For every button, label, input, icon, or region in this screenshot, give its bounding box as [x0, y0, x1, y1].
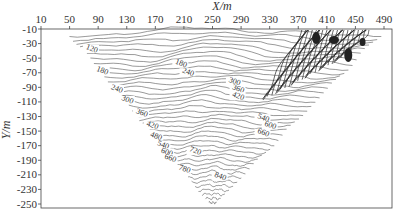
contour-line: [209, 201, 217, 204]
x-tick-label: 290: [233, 13, 250, 25]
y-axis-title: Y/m: [0, 120, 13, 139]
x-tick-label: 330: [261, 13, 278, 25]
x-tick-label: 170: [147, 13, 164, 25]
x-tick-label: 250: [204, 13, 221, 25]
contour-label: 240: [110, 82, 124, 95]
contour-line: [125, 95, 315, 105]
dense-contour-blob: [312, 32, 320, 44]
y-ticks: -10-30-50-70-90-110-130-150-170-190-210-…: [17, 23, 41, 210]
contour-label: 300: [120, 93, 134, 106]
x-tick-label: 130: [119, 13, 136, 25]
y-tick-label: -110: [17, 95, 37, 107]
x-tick-label: 210: [176, 13, 193, 25]
y-tick-label: -30: [22, 37, 37, 49]
y-tick-label: -150: [17, 125, 38, 137]
contour-line: [206, 197, 221, 200]
x-tick-label: 50: [64, 13, 76, 25]
contour-label: 120: [85, 42, 99, 55]
x-axis-title: X/m: [211, 0, 232, 13]
dense-contour-zone: [263, 30, 369, 100]
y-tick-label: -230: [17, 183, 38, 195]
x-tick-label: 10: [36, 13, 48, 25]
contour-chart: X/m Y/m 10509013017021025029033037041045…: [0, 0, 396, 216]
contour-line: [129, 100, 311, 108]
contour-line: [122, 90, 320, 99]
y-tick-label: -70: [22, 66, 37, 78]
contour-label: 660: [163, 152, 177, 165]
contour-label: 180: [95, 64, 109, 77]
contour-line: [199, 189, 230, 192]
y-tick-label: -130: [17, 110, 38, 122]
x-tick-label: 490: [376, 13, 393, 25]
contour-label: 780: [178, 163, 192, 176]
contour-line: [171, 154, 262, 158]
contour-line: [139, 114, 299, 120]
y-tick-label: -250: [17, 198, 38, 210]
y-tick-label: -210: [17, 168, 38, 180]
contour-label: 840: [213, 170, 227, 183]
y-tick-label: -190: [17, 154, 38, 166]
y-tick-label: -10: [22, 23, 37, 35]
dense-contour-line: [263, 30, 302, 100]
x-tick-label: 370: [290, 13, 307, 25]
dense-contour-blob: [329, 36, 339, 44]
y-tick-label: -170: [17, 139, 38, 151]
contour-line: [164, 145, 270, 150]
contour-line: [202, 193, 225, 196]
contour-line: [136, 111, 303, 117]
contour-line: [160, 141, 274, 146]
y-tick-label: -90: [22, 81, 37, 93]
x-tick-label: 450: [347, 13, 364, 25]
contour-line: [195, 184, 233, 187]
x-ticks: 105090130170210250290330370410450490: [36, 13, 393, 29]
y-tick-label: -50: [22, 52, 37, 64]
dense-contour-blob: [344, 48, 352, 62]
x-tick-label: 410: [319, 13, 336, 25]
x-tick-label: 90: [93, 13, 105, 25]
dense-contour-blob: [360, 38, 366, 46]
contour-line: [167, 150, 266, 154]
